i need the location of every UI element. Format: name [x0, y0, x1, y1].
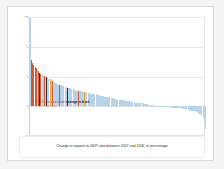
legend-line-2: EU c. in orange [36, 104, 176, 108]
y-tick-label-40: 40 [19, 75, 28, 78]
chart-bar [78, 91, 79, 107]
chart-bar [36, 68, 37, 106]
chart-bar [52, 81, 53, 106]
chart-bar [50, 79, 51, 106]
caption-box: Change in exports to GDP ratio between 2… [19, 136, 205, 158]
chart-bar [84, 92, 85, 106]
chart-caption: Change in exports to GDP ratio between 2… [20, 144, 204, 149]
chart-bar [44, 76, 45, 106]
y-tick-label-120: 120 [19, 16, 28, 19]
y-tick-label-0: 0 [19, 105, 28, 108]
chart-legend: EU11 countries in red, average in black … [36, 100, 176, 109]
chart-bars [30, 17, 205, 136]
slide-background: 12080400-40 EU11 countries in red, avera… [0, 0, 224, 169]
chart-bar [40, 74, 41, 107]
slide-card: 12080400-40 EU11 countries in red, avera… [7, 6, 214, 161]
chart-bar [67, 88, 68, 107]
chart-bar [205, 106, 206, 128]
chart-container: 12080400-40 EU11 countries in red, avera… [19, 17, 205, 136]
y-tick-label-80: 80 [19, 45, 28, 48]
chart-bar [46, 77, 47, 106]
chart-bar [59, 85, 60, 107]
